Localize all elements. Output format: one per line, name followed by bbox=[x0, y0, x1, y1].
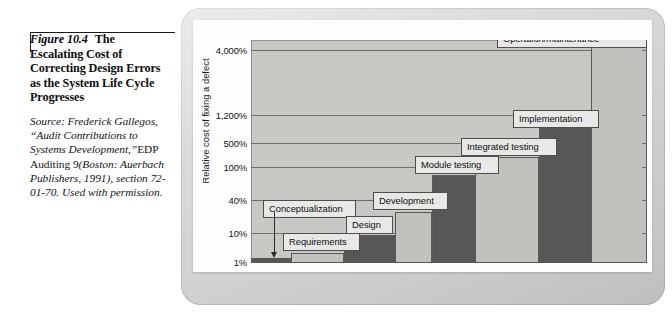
y-tick-100: 100% bbox=[195, 162, 247, 173]
y-tick-40: 40% bbox=[195, 195, 247, 206]
figure-caption: Figure 10.4The Escalating Cost of Correc… bbox=[30, 32, 170, 199]
source-line-1: Source: Frederick bbox=[30, 115, 111, 127]
label-requirements: Requirements bbox=[283, 233, 360, 251]
conceptualization-pointer-shaft bbox=[274, 212, 275, 256]
bar-operation-maintenance bbox=[591, 40, 647, 263]
bar-development bbox=[395, 212, 432, 263]
plot-area: ConceptualizationRequirementsDesignDevel… bbox=[251, 40, 647, 263]
bar-module-testing bbox=[432, 175, 475, 263]
figure-page: Figure 10.4The Escalating Cost of Correc… bbox=[0, 0, 672, 314]
source-line-5-roman: Auditing 9 bbox=[30, 158, 79, 170]
figure-title: Figure 10.4The Escalating Cost of Correc… bbox=[30, 32, 170, 105]
right-edge-tick bbox=[642, 143, 647, 144]
figure-number: Figure 10.4 bbox=[30, 32, 88, 46]
right-edge-tick bbox=[642, 233, 647, 234]
conceptualization-pointer-arrow-icon bbox=[271, 252, 277, 258]
label-implementation: Implementation bbox=[513, 110, 599, 128]
y-tick-4000: 4,000% bbox=[195, 45, 247, 56]
right-edge-tick bbox=[642, 200, 647, 201]
gridline-4000 bbox=[251, 50, 647, 51]
bar-conceptualization bbox=[251, 258, 291, 263]
y-axis-tick-labels: 4,000%1,200%500%100%40%10%1% bbox=[193, 20, 247, 272]
bar-chart: Relative cost of fixing a defect 4,000%1… bbox=[193, 20, 652, 272]
y-tick-500: 500% bbox=[195, 138, 247, 149]
source-line-4-roman: EDP bbox=[137, 143, 158, 155]
label-design: Design bbox=[346, 216, 393, 234]
right-edge-tick bbox=[642, 50, 647, 51]
label-development: Development bbox=[373, 192, 448, 210]
label-conceptualization: Conceptualization bbox=[263, 200, 356, 218]
y-tick-10: 10% bbox=[195, 228, 247, 239]
label-integrated-testing: Integrated testing bbox=[461, 138, 557, 156]
bar-requirements bbox=[291, 253, 344, 263]
figure-source: Source: Frederick Gallegos, “Audit Contr… bbox=[30, 114, 170, 199]
label-module-testing: Module testing bbox=[415, 156, 499, 174]
y-tick-1: 1% bbox=[195, 257, 247, 268]
source-line-5: (Boston: bbox=[79, 158, 118, 170]
right-edge-tick bbox=[642, 115, 647, 116]
source-line-8: Used with permission. bbox=[62, 186, 163, 198]
source-line-4: Development,” bbox=[69, 143, 138, 155]
label-operation-maintenance: Operation/maintenance bbox=[497, 40, 647, 48]
y-tick-1200: 1,200% bbox=[195, 110, 247, 121]
right-edge-tick bbox=[642, 167, 647, 168]
